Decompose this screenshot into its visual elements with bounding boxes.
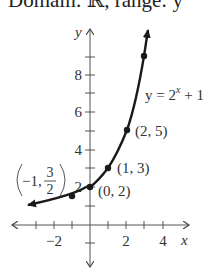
x-tick-label: 2 — [122, 233, 130, 249]
data-point — [87, 184, 93, 190]
x-tick-label: −2 — [46, 233, 62, 249]
data-point — [69, 193, 75, 199]
y-tick-label: 8 — [75, 67, 83, 83]
y-tick-label: 4 — [75, 142, 83, 158]
y-tick-label: 6 — [75, 104, 83, 120]
point-label-2: (2, 5) — [135, 123, 168, 140]
svg-text:3: 3 — [47, 165, 54, 180]
equation-label: y = 2x + 1 — [145, 84, 204, 103]
x-axis-label: x — [180, 232, 188, 248]
data-point — [141, 53, 147, 59]
point-label-neg1: −1, 3 2 — [17, 164, 65, 197]
svg-text:2: 2 — [47, 182, 54, 197]
data-point — [124, 127, 130, 133]
x-tick-label: 4 — [159, 233, 167, 249]
svg-text:−1,: −1, — [22, 173, 42, 189]
data-point — [105, 165, 111, 171]
point-label-1: (1, 3) — [117, 160, 150, 177]
function-graph: −2 2 4 2 4 6 8 x y −1, 3 2 (0, 2) (1, 3)… — [0, 0, 220, 269]
point-label-0: (0, 2) — [98, 183, 131, 200]
y-axis-label: y — [73, 24, 82, 40]
